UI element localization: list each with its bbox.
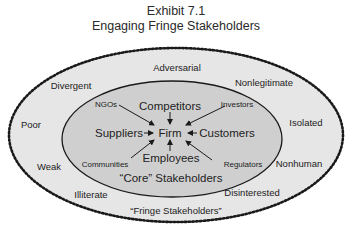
core-competitors: Competitors [139,100,201,112]
core-regulators: Regulators [224,160,263,169]
core-customers: Customers [199,127,255,139]
core-employees: Employees [143,152,200,164]
fringe-attribute-poor: Poor [21,119,41,130]
fringe-attribute-isolated: Isolated [289,117,322,128]
firm-label: Firm [159,127,182,139]
core-suppliers: Suppliers [95,127,143,139]
fringe-attribute-adversarial: Adversarial [153,62,201,73]
core-investors: Investors [221,100,253,109]
fringe-attribute-weak: Weak [37,161,61,172]
fringe-attribute-disinterested: Disinterested [224,187,279,198]
fringe-attribute-illiterate: Illiterate [74,189,107,200]
core-communities: Communities [82,160,129,169]
fringe-attribute-nonhuman: Nonhuman [276,158,322,169]
core-ngos: NGOs [95,100,117,109]
fringe-attribute-divergent: Divergent [51,80,92,91]
core-stakeholders-label: “Core” Stakeholders [120,172,223,184]
fringe-stakeholders-label: “Fringe Stakeholders” [130,205,221,216]
fringe-attribute-nonlegitimate: Nonlegitimate [235,77,293,88]
